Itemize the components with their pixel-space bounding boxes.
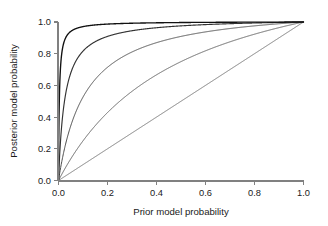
y-axis-tick-label: 0.4	[38, 113, 51, 123]
x-axis-title: Prior model probability	[133, 206, 229, 217]
y-axis-tick-label: 0.8	[38, 49, 51, 59]
x-axis-tick-label: 0.0	[52, 188, 65, 198]
chart-curves-group	[59, 22, 304, 181]
y-axis-tick-label: 0.6	[38, 81, 51, 91]
chart-series-line	[59, 22, 304, 181]
x-axis-tick-label: 0.2	[101, 188, 114, 198]
y-axis-tick-label: 1.0	[38, 17, 51, 27]
x-axis-tick-label: 0.6	[199, 188, 212, 198]
chart-figure: 0.00.20.40.60.81.00.00.20.40.60.81.0 Pri…	[0, 0, 328, 226]
x-axis-tick-label: 0.4	[150, 188, 163, 198]
chart-plot-svg: 0.00.20.40.60.81.00.00.20.40.60.81.0 Pri…	[0, 0, 328, 226]
x-axis-tick-label: 0.8	[248, 188, 261, 198]
x-axis-tick-label: 1.0	[297, 188, 310, 198]
y-axis-tick-label: 0.0	[38, 176, 51, 186]
y-axis-title: Posterior model probability	[8, 44, 19, 158]
y-axis-tick-label: 0.2	[38, 144, 51, 154]
